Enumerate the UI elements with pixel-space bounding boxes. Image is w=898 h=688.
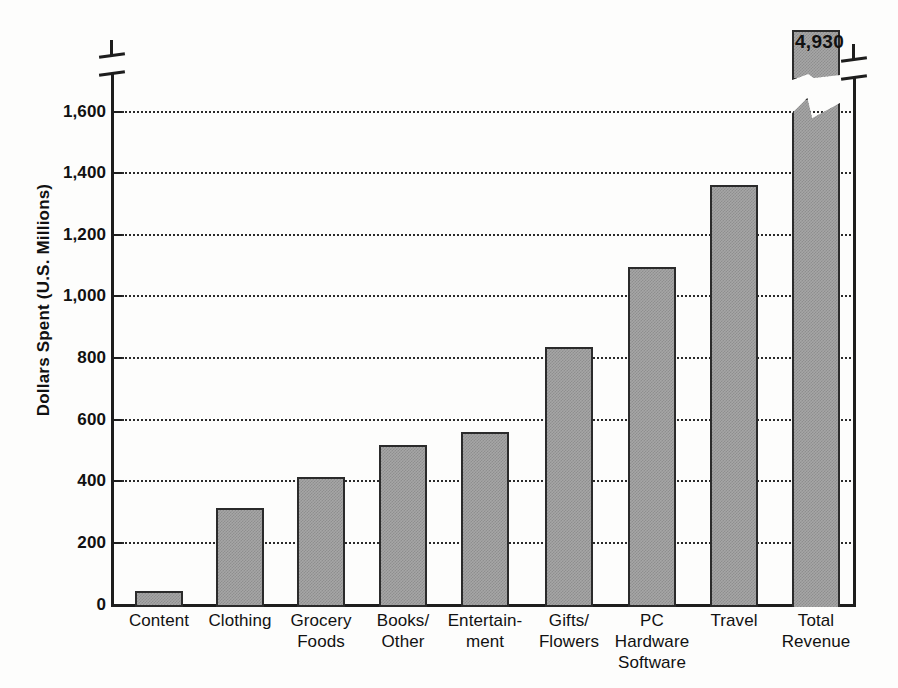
y-tick-200: 200 <box>28 533 106 553</box>
right-axis-line <box>853 78 856 607</box>
tickmark-1000 <box>113 295 122 297</box>
axis-break-stub-right <box>841 44 867 66</box>
y-tick-800: 800 <box>28 348 106 368</box>
x-label-grocery-foods: Grocery Foods <box>281 610 361 652</box>
y-tick-1200: 1,200 <box>28 225 106 245</box>
gridline-1400 <box>122 172 855 174</box>
y-tick-1600: 1,600 <box>28 102 106 122</box>
y-tick-1000: 1,000 <box>28 286 106 306</box>
x-label-books-other: Books/ Other <box>363 610 443 652</box>
bar-grocery-foods <box>297 477 345 607</box>
tickmark-1200 <box>113 234 122 236</box>
x-label-clothing: Clothing <box>200 610 280 631</box>
y-tick-400: 400 <box>28 471 106 491</box>
tickmark-200 <box>113 542 122 544</box>
bar-gifts-flowers <box>545 347 593 607</box>
bar-content <box>135 591 183 607</box>
x-label-pc-hardware-software: PC Hardware Software <box>608 610 696 673</box>
axis-break-stub-left <box>99 40 125 62</box>
bar-total-revenue <box>792 98 840 607</box>
bar-entertainment <box>461 432 509 607</box>
x-label-entertainment: Entertain- ment <box>443 610 527 652</box>
bar-travel <box>710 185 758 607</box>
bar-clothing <box>216 508 264 607</box>
bar-chart: Dollars Spent (U.S. Millions) 1,600 1,40… <box>0 0 898 688</box>
bar-books-other <box>379 445 427 607</box>
y-axis-tick-labels: 1,600 1,400 1,200 1,000 800 600 400 200 … <box>22 0 106 688</box>
y-tick-600: 600 <box>28 410 106 430</box>
axis-break-cap-left <box>99 72 125 84</box>
y-tick-0: 0 <box>28 595 106 615</box>
bar-pc-hardware-software <box>628 267 676 607</box>
gridline-1600 <box>122 111 855 113</box>
tickmark-400 <box>113 480 122 482</box>
tickmark-600 <box>113 419 122 421</box>
x-label-total-revenue: Total Revenue <box>774 610 858 652</box>
bar-value-total-revenue: 4,930 <box>795 31 844 53</box>
y-axis-line <box>111 74 114 607</box>
x-label-travel: Travel <box>694 610 774 631</box>
x-label-gifts-flowers: Gifts/ Flowers <box>527 610 611 652</box>
tickmark-1400 <box>113 172 122 174</box>
x-label-content: Content <box>119 610 199 631</box>
axis-break-cap-right <box>841 76 867 88</box>
tickmark-1600 <box>113 111 122 113</box>
tickmark-800 <box>113 357 122 359</box>
y-tick-1400: 1,400 <box>28 163 106 183</box>
